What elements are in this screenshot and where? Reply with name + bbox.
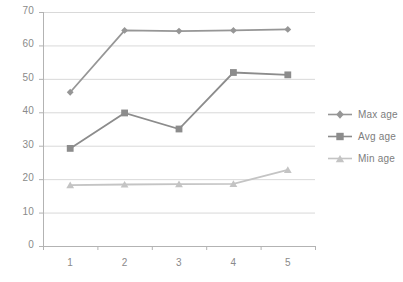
series-max-age (67, 26, 291, 96)
legend-item-avg-age[interactable]: Avg age (327, 130, 398, 143)
data-point-marker (284, 166, 292, 173)
legend-label-max-age: Max age (358, 109, 398, 120)
series-line (70, 29, 288, 92)
x-axis-tick-label: 2 (113, 257, 137, 268)
series-min-age (66, 166, 291, 188)
y-axis-tick-label: 40 (8, 105, 34, 116)
data-point-marker (176, 126, 183, 133)
y-axis-tick-label: 50 (8, 72, 34, 83)
line-chart: 010203040506070 12345 Max age Avg age Mi… (0, 0, 403, 282)
legend-marker-triangle-icon (327, 152, 353, 165)
y-axis-tick-label: 30 (8, 139, 34, 150)
y-axis-tick-label: 60 (8, 38, 34, 49)
y-axis-tick-label: 10 (8, 206, 34, 217)
legend-marker-diamond-icon (327, 108, 353, 121)
data-point-marker (284, 71, 291, 78)
data-point-marker (176, 28, 183, 35)
data-series-group (66, 26, 291, 188)
legend-label-avg-age: Avg age (358, 131, 396, 142)
x-axis-tick-label: 1 (58, 257, 82, 268)
x-axis-tick-label: 3 (167, 257, 191, 268)
legend-label-min-age: Min age (358, 153, 395, 164)
chart-legend: Max age Avg age Min age (327, 108, 398, 165)
data-point-marker (230, 27, 237, 34)
legend-item-max-age[interactable]: Max age (327, 108, 398, 121)
legend-item-min-age[interactable]: Min age (327, 152, 398, 165)
y-axis-tick-label: 70 (8, 5, 34, 16)
data-point-marker (230, 69, 237, 76)
x-axis-tick-label: 5 (276, 257, 300, 268)
data-point-marker (284, 26, 291, 33)
y-axis-ticks (39, 13, 43, 247)
legend-marker-square-icon (327, 130, 353, 143)
series-line (70, 73, 288, 149)
y-axis-tick-label: 20 (8, 172, 34, 183)
data-point-marker (121, 110, 128, 117)
series-avg-age (67, 69, 291, 152)
data-point-marker (67, 145, 74, 152)
x-axis-tick-label: 4 (221, 257, 245, 268)
y-axis-tick-label: 0 (8, 239, 34, 250)
